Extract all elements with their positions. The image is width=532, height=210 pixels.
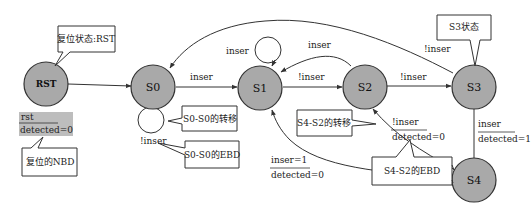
note-s4-s2-ebd-text: S4-S2的EBD xyxy=(384,165,440,176)
note-s4-s2-transition: S4-S2的转移 xyxy=(297,110,376,136)
state-s2[interactable]: S2 xyxy=(343,65,387,109)
note-s3-state: S3状态 xyxy=(437,15,491,66)
state-s0[interactable]: S0 xyxy=(131,65,175,109)
edge-label-s0-s1: inser xyxy=(190,72,214,82)
state-s4-label: S4 xyxy=(467,174,482,187)
note-s0-s0-transition-text: S0-S0的转移 xyxy=(183,113,237,124)
edge-label-s1-self: inser xyxy=(226,46,250,56)
edge-label-s2-s1: inser xyxy=(308,40,332,50)
note-rst-state: 复位状态:RST xyxy=(55,26,115,66)
reset-guard: rst xyxy=(21,112,34,122)
edge-s1-self-arrow xyxy=(272,60,275,66)
state-s0-label: S0 xyxy=(146,81,161,94)
state-s4[interactable]: S4 xyxy=(452,158,496,202)
reset-action-box: rst detected=0 xyxy=(19,112,73,136)
edge-s0-self-loop xyxy=(138,107,164,133)
note-reset-nbd: 复位的NBD xyxy=(22,137,77,176)
state-s2-label: S2 xyxy=(358,81,373,94)
state-diagram: inser !inser inser !inser inser !inser !… xyxy=(0,0,532,210)
note-reset-nbd-text: 复位的NBD xyxy=(26,156,75,167)
edge-rst-s0 xyxy=(68,84,131,86)
state-s1-label: S1 xyxy=(253,82,268,95)
edge-s2-s1 xyxy=(281,56,351,72)
state-rst-label: RST xyxy=(36,79,57,89)
note-s0-s0-transition: S0-S0的转移 xyxy=(168,106,237,131)
edge-label-s2-s3: !inser xyxy=(400,72,427,82)
edge-label-s3-s4-guard: inser xyxy=(478,119,502,129)
note-s4-s2-transition-text: S4-S2的转移 xyxy=(297,117,351,128)
note-s4-s2-ebd: S4-S2的EBD xyxy=(372,140,454,185)
state-rst[interactable]: RST xyxy=(24,62,68,106)
note-s0-s0-ebd: S0-S0的EBD xyxy=(158,141,240,168)
note-rst-state-text: 复位状态:RST xyxy=(57,33,115,44)
state-s1[interactable]: S1 xyxy=(238,66,282,110)
edge-label-s1-s2: !inser xyxy=(298,72,325,82)
edge-label-s4-s1-action: detected=0 xyxy=(271,170,324,180)
reset-action: detected=0 xyxy=(20,125,73,135)
edge-label-s4-s1-guard: inser=1 xyxy=(271,155,307,165)
note-s0-s0-ebd-text: S0-S0的EBD xyxy=(184,149,240,160)
note-s3-state-text: S3状态 xyxy=(449,21,479,32)
edge-label-s4-s2-guard: !inser xyxy=(392,117,419,127)
edge-label-s3-s0: !inser xyxy=(424,44,451,54)
edge-s1-self-loop xyxy=(255,37,281,63)
state-s3-label: S3 xyxy=(467,81,482,94)
edge-label-s4-s2-action: detected=0 xyxy=(392,132,445,142)
edge-label-s3-s4-action: detected=1 xyxy=(478,134,531,144)
state-s3[interactable]: S3 xyxy=(452,65,496,109)
